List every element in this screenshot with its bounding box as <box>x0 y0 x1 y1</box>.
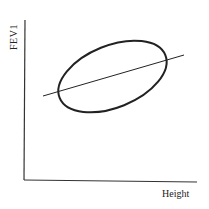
y-axis-label: FEV1 <box>6 22 20 52</box>
data-ellipse <box>48 26 177 126</box>
x-axis <box>24 180 197 182</box>
fev1-height-diagram: FEV1 Height <box>0 0 209 209</box>
y-axis <box>24 20 25 180</box>
x-axis-label: Height <box>162 188 189 199</box>
y-axis-label-text: FEV1 <box>8 24 19 50</box>
diagram-graphic <box>0 0 209 209</box>
